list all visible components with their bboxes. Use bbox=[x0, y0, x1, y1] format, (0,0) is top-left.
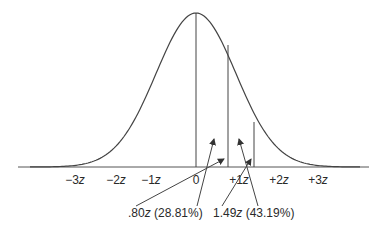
axis-label: −1z bbox=[141, 173, 161, 187]
axis-label: +3z bbox=[308, 173, 328, 187]
bell-curve bbox=[30, 13, 360, 167]
axis-label: +1z bbox=[229, 173, 249, 187]
axis-label: −3z bbox=[65, 173, 85, 187]
axis-label: −2z bbox=[106, 173, 126, 187]
normal-curve-diagram bbox=[0, 0, 382, 234]
axis-label: +2z bbox=[269, 173, 289, 187]
annotation-label: 1.49z (43.19%) bbox=[213, 206, 294, 220]
axis-label: 0 bbox=[193, 173, 200, 187]
annotation-label: .80z (28.81%) bbox=[128, 206, 203, 220]
